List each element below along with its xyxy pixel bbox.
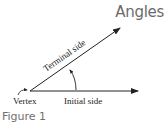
angle-arc-icon	[70, 70, 76, 90]
vertex-label: Vertex	[13, 96, 37, 106]
initial-side-label: Initial side	[64, 96, 102, 106]
figure-caption: Figure 1	[2, 110, 46, 123]
vertex-pointer-icon	[18, 90, 27, 95]
angle-diagram: Terminal side Initial side Vertex	[0, 0, 166, 128]
